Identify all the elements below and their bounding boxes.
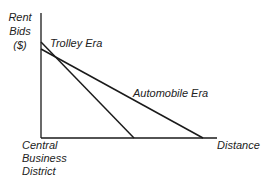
origin-label-line1: Central (22, 138, 57, 152)
y-axis-label-line2: Bids (0, 24, 40, 38)
origin-label-line3: District (22, 164, 56, 178)
y-axis-label-line1: Rent (0, 10, 40, 24)
automobile-era-label: Automobile Era (133, 86, 208, 100)
origin-label-line2: Business (22, 151, 67, 165)
y-axis-label-line3: ($) (0, 38, 40, 52)
x-axis-label: Distance (217, 138, 260, 152)
trolley-era-label: Trolley Era (50, 36, 102, 50)
